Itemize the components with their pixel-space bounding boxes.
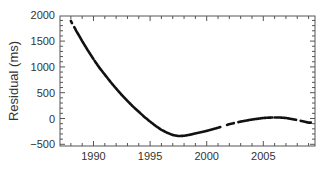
x-tick-label: 1995 [138, 150, 162, 162]
y-tick-label: 1500 [31, 35, 55, 47]
residual-chart: −5000500100015002000 1990199520002005 Re… [0, 0, 331, 171]
y-tick-label: −500 [30, 138, 55, 150]
series-segment [227, 123, 234, 125]
y-tick-label: 2000 [31, 9, 55, 21]
y-tick-label: 1000 [31, 61, 55, 73]
x-axis-tick-labels: 1990199520002005 [81, 150, 275, 162]
series-segment [71, 21, 72, 23]
x-tick-label: 2000 [194, 150, 218, 162]
plot-frame [60, 16, 315, 146]
y-axis-title: Residual (ms) [6, 41, 21, 121]
x-tick-label: 1990 [81, 150, 105, 162]
y-tick-label: 0 [49, 113, 55, 125]
x-tick-label: 2005 [251, 150, 275, 162]
y-axis-tick-labels: −5000500100015002000 [30, 9, 55, 150]
y-tick-label: 500 [37, 87, 55, 99]
